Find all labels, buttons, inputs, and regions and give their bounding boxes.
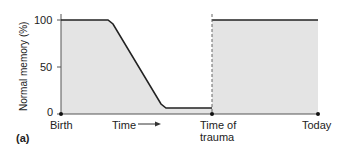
panel-label: (a) (16, 132, 29, 144)
y-tick-50: 50 (40, 61, 52, 73)
x-label-trauma-1: Time of (200, 119, 236, 131)
y-axis-label: Normal memory (%) (18, 22, 29, 111)
time-arrow-icon (155, 122, 161, 127)
birth-dot (59, 112, 63, 116)
trauma-dot (210, 112, 214, 116)
x-label-time: Time (112, 119, 136, 131)
today-dot (316, 112, 320, 116)
y-tick-0: 0 (47, 106, 53, 118)
x-label-birth: Birth (50, 119, 73, 131)
memory-area (61, 20, 318, 114)
x-label-today: Today (302, 119, 331, 131)
y-tick-100: 100 (34, 14, 52, 26)
x-label-trauma-2: trauma (200, 131, 234, 143)
